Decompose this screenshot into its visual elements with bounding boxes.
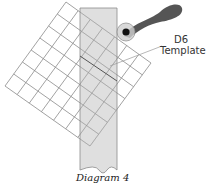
- pivot-dot-icon: [122, 28, 129, 35]
- leader-line: [110, 46, 162, 66]
- label-d6: D6: [160, 34, 202, 45]
- figure-caption: Diagram 4: [76, 172, 129, 183]
- template-label: D6 Template: [160, 34, 202, 56]
- diagram-canvas: [0, 0, 206, 183]
- label-template: Template: [160, 45, 202, 56]
- measuring-strip: [80, 8, 117, 173]
